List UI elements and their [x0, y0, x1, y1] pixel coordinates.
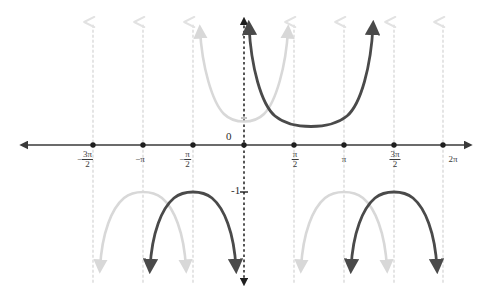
tick-dot-neg-pi-2	[190, 142, 195, 147]
tick-dot-pi-2	[291, 142, 296, 147]
x-tick-label-neg-pi: −π	[135, 155, 145, 164]
x-tick-label-2pi: 2π	[448, 155, 457, 164]
tick-dot-neg-pi	[140, 142, 145, 147]
whole-pi: π	[342, 154, 347, 164]
minus-one-label: -1	[231, 185, 240, 196]
tick-dot-pi	[341, 142, 346, 147]
x-tick-label-pi-2: π2	[292, 150, 299, 169]
graph-canvas: 0 -1 −3π2 −π −π2 π2 π 3π2 2π	[0, 0, 483, 294]
tick-dot-origin	[241, 142, 246, 147]
x-tick-label-neg-pi-2: −π2	[179, 150, 191, 169]
tick-dot-neg-3pi-2	[90, 142, 95, 147]
secant-graph-svg	[0, 0, 483, 294]
tick-dot-3pi-2	[391, 142, 396, 147]
den-neg-pi-2: 2	[184, 160, 191, 169]
tick-dot-2pi	[440, 142, 445, 147]
den-pi-2: 2	[292, 160, 299, 169]
x-tick-label-neg-3pi-2: −3π2	[77, 150, 93, 169]
den-neg-3pi-2: 2	[82, 160, 93, 169]
den-3pi-2: 2	[389, 160, 400, 169]
x-tick-label-3pi-2: 3π2	[389, 150, 400, 169]
whole-2pi: 2π	[448, 154, 457, 164]
x-tick-label-pi: π	[342, 155, 347, 164]
whole-neg-pi: π	[140, 154, 145, 164]
origin-label: 0	[226, 131, 232, 142]
